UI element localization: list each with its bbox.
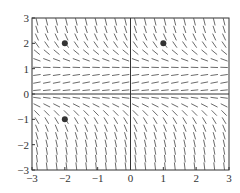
slope-segment (122, 97, 129, 98)
slope-segment (151, 90, 158, 91)
slope-segment (36, 132, 38, 139)
slope-segment (64, 110, 69, 115)
slope-segment (144, 125, 147, 132)
slope-segment (221, 104, 228, 107)
slope-segment (145, 162, 146, 169)
slope-segment (223, 18, 225, 25)
slope-segment (56, 162, 57, 169)
slope-segment (105, 18, 107, 25)
slope-segment (151, 82, 158, 83)
slope-segment (201, 74, 208, 75)
slope-segment (55, 125, 58, 132)
y-tick-labels: −3−2−10123 (17, 12, 29, 176)
slope-segment (85, 18, 87, 25)
slope-segment (184, 162, 185, 169)
slope-segment (105, 26, 107, 33)
slope-segment (194, 140, 196, 147)
slope-segment (223, 147, 224, 154)
slope-segment (201, 82, 208, 83)
slope-segment (151, 74, 158, 75)
slope-segment (85, 140, 87, 147)
slope-segment (181, 82, 188, 83)
slope-segment (115, 140, 117, 147)
slope-segment (36, 140, 38, 147)
slope-segment (36, 162, 37, 169)
slope-segment (66, 162, 67, 169)
slope-segment (95, 125, 98, 132)
slope-segment (112, 97, 119, 98)
slope-segment (154, 34, 157, 41)
slope-segment (103, 50, 109, 55)
slope-segment (194, 147, 195, 154)
slope-segment (193, 117, 197, 123)
slope-segment (181, 74, 188, 75)
slope-segment (65, 26, 67, 33)
slope-segment (164, 147, 165, 154)
slope-segment (223, 26, 225, 33)
slope-segment (152, 104, 159, 107)
initial-point (62, 40, 68, 46)
slope-field-chart: −3−2−10123 −3−2−10123 (0, 0, 240, 193)
slope-segment (223, 34, 226, 41)
slope-segment (75, 132, 77, 139)
slope-segment (154, 18, 156, 25)
slope-segment (33, 82, 40, 83)
slope-segment (46, 147, 47, 154)
slope-segment (55, 26, 57, 33)
slope-segment (210, 90, 217, 91)
slope-segment (143, 110, 148, 115)
slope-segment (171, 74, 178, 75)
slope-segment (203, 132, 205, 139)
slope-segment (152, 110, 157, 115)
slope-segment (145, 147, 146, 154)
slope-segment (221, 50, 227, 55)
slope-segment (164, 18, 166, 25)
slope-segment (204, 162, 205, 169)
slope-segment (105, 132, 107, 139)
slope-segment (201, 50, 207, 55)
slope-segment (75, 18, 77, 25)
slope-segment (74, 110, 79, 115)
slope-segment (162, 50, 168, 55)
slope-segment (95, 18, 97, 25)
slope-segment (212, 110, 217, 115)
slope-segment (211, 59, 218, 62)
slope-segment (211, 50, 217, 55)
slope-segment (224, 155, 225, 162)
slope-segment (155, 155, 156, 162)
slope-segment (66, 155, 67, 162)
slope-segment (95, 147, 96, 154)
slope-segment (63, 59, 70, 62)
slope-segment (154, 26, 156, 33)
slope-segment (133, 50, 139, 55)
slope-segment (203, 125, 206, 132)
slope-segment (173, 34, 176, 41)
slope-segment (142, 97, 149, 98)
slope-segment (124, 34, 127, 41)
slope-segment (123, 110, 128, 115)
slope-segment (161, 97, 168, 98)
slope-segment (213, 18, 215, 25)
slope-segment (204, 155, 205, 162)
slope-segment (142, 74, 149, 75)
slope-segment (63, 90, 70, 91)
slope-segment (191, 90, 198, 91)
slope-segment (122, 82, 129, 83)
slope-segment (174, 26, 176, 33)
slope-segment (222, 117, 226, 123)
slope-segment (144, 34, 147, 41)
slope-segment (181, 97, 188, 98)
slope-segment (33, 74, 40, 75)
slope-segment (34, 104, 41, 107)
slope-segment (214, 147, 215, 154)
slope-segment (104, 125, 107, 132)
slope-segment (95, 155, 96, 162)
slope-segment (191, 97, 198, 98)
slope-segment (184, 155, 185, 162)
slope-segment (92, 82, 99, 83)
slope-segment (53, 82, 60, 83)
slope-segment (93, 50, 99, 55)
slope-segment (213, 140, 215, 147)
slope-segment (125, 18, 127, 25)
slope-segment (132, 82, 139, 83)
